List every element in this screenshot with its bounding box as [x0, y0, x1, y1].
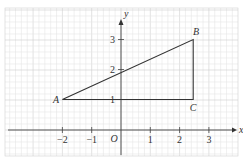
- x-axis: [8, 128, 237, 133]
- point-b-label: B: [193, 26, 199, 37]
- point-a-label: A: [52, 94, 60, 105]
- x-tick-label: 1: [148, 134, 153, 145]
- x-axis-label: x: [238, 124, 243, 135]
- x-tick-label: 2: [177, 134, 182, 145]
- origin-label: O: [110, 133, 117, 144]
- y-tick-label: 3: [110, 34, 115, 45]
- y-tick-label: 2: [110, 64, 115, 75]
- grid: [5, 8, 238, 156]
- point-c-label: C: [190, 102, 197, 113]
- x-tick-label: −2: [57, 134, 68, 145]
- x-tick-label: 3: [206, 134, 211, 145]
- coordinate-diagram: −2 −1 1 2 3 1 2 3 O x y A B C: [0, 0, 243, 165]
- x-tick-label: −1: [86, 134, 97, 145]
- y-axis-label: y: [123, 8, 129, 19]
- x-axis-arrow-icon: [232, 128, 237, 133]
